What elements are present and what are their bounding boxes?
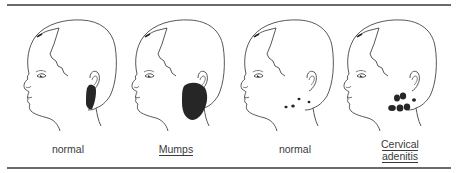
label-cervical-adenitis: Cervical adenitis: [355, 139, 445, 163]
enlarged-lymph-node: [394, 95, 400, 102]
lymph-node: [291, 105, 295, 108]
head-normal-parotid: [24, 20, 116, 131]
lymph-node: [308, 101, 311, 103]
enlarged-lymph-node: [397, 104, 404, 111]
enlarged-lymph-node: [400, 92, 406, 99]
head-normal-nodes: [241, 20, 333, 131]
lymph-node: [284, 106, 287, 109]
label-mumps: Mumps: [131, 144, 221, 156]
head-cervical-adenitis: [344, 20, 436, 131]
enlarged-lymph-node: [404, 104, 410, 111]
label-normal-1: normal: [23, 144, 113, 155]
head-mumps: [132, 20, 224, 131]
enlarged-parotid-gland: [182, 83, 207, 120]
label-normal-2: normal: [250, 144, 340, 155]
parotid-gland: [86, 85, 96, 110]
lymph-node: [298, 98, 301, 101]
enlarged-lymph-node: [412, 98, 416, 102]
enlarged-lymph-node: [388, 105, 396, 111]
